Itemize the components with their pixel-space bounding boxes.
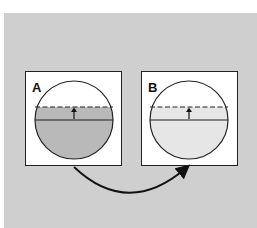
diagram-graphics (0, 0, 257, 228)
liquid-a (30, 107, 120, 167)
curved-arrow-icon (74, 167, 186, 193)
sphere-b (145, 81, 235, 167)
sphere-a (30, 81, 120, 167)
liquid-b (145, 107, 235, 167)
